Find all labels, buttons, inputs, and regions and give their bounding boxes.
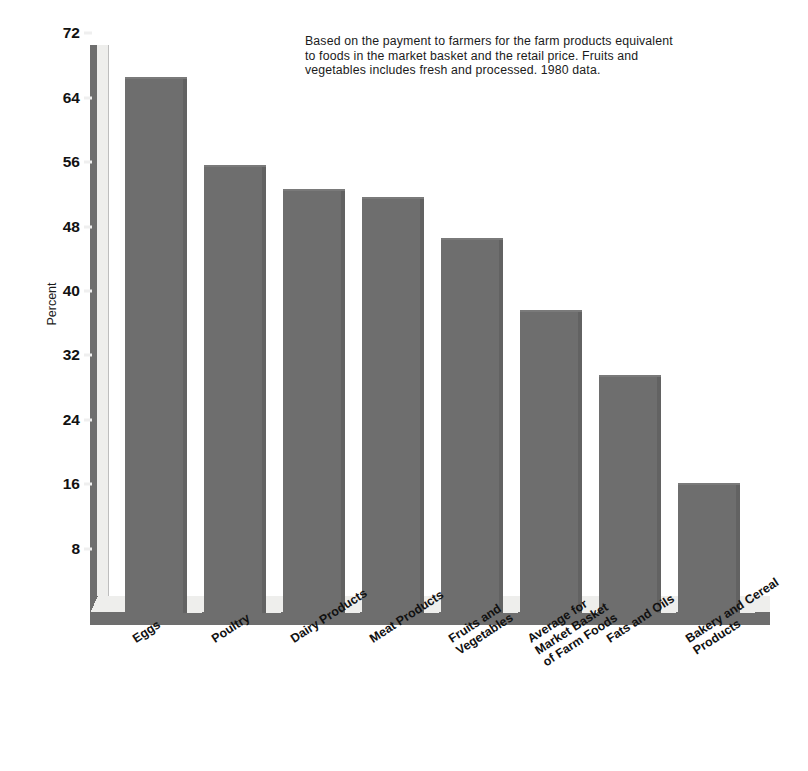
x-tick-label: Dairy Products xyxy=(288,586,370,646)
x-tick-label: Average for Market Basket of Farm Foods xyxy=(525,587,620,669)
x-tick-label: Fruits and Vegetables xyxy=(446,599,516,658)
x-tick-label: Poultry xyxy=(209,611,252,646)
x-axis-labels: EggsPoultryDairy ProductsMeat ProductsFr… xyxy=(0,0,808,771)
x-tick-label: Meat Products xyxy=(367,588,446,646)
x-tick-label: Eggs xyxy=(130,617,163,645)
chart-root: Based on the payment to farmers for the … xyxy=(0,0,808,771)
x-tick-label: Bakery and Cereal Products xyxy=(683,575,789,657)
